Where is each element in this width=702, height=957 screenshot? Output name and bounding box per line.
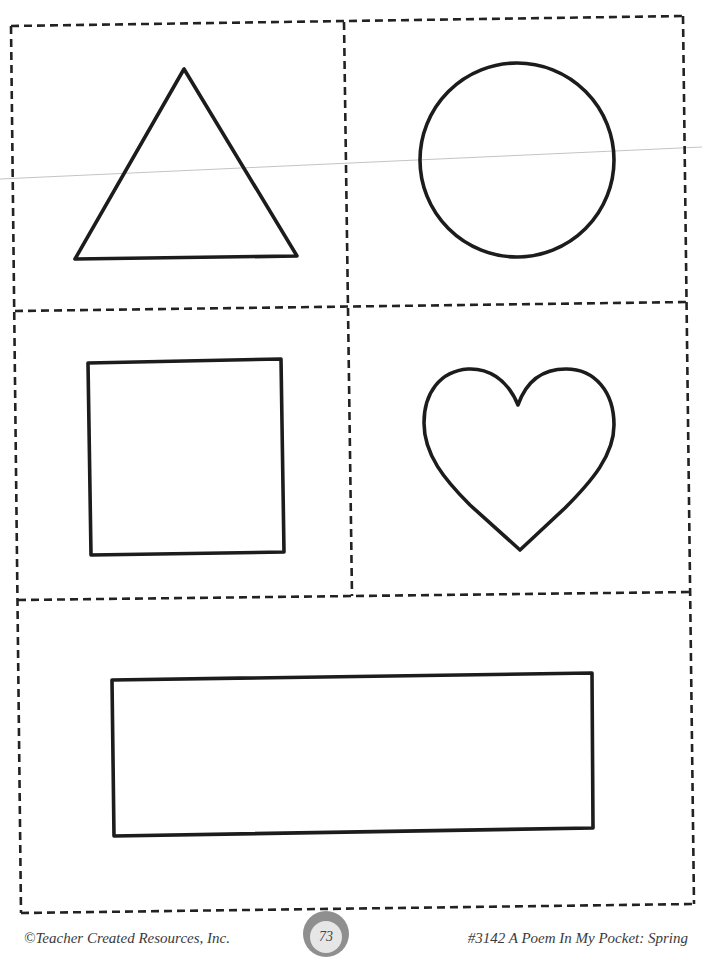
card-rectangle bbox=[112, 673, 593, 836]
publisher-credit: ©Teacher Created Resources, Inc. bbox=[24, 930, 230, 947]
rectangle-shape bbox=[112, 673, 593, 836]
worksheet-page bbox=[0, 0, 702, 957]
card-circle bbox=[420, 63, 614, 257]
square-shape bbox=[88, 359, 284, 555]
page-number-badge: 73 bbox=[303, 911, 349, 957]
cut-line-bottom bbox=[21, 904, 694, 913]
cut-line-row-divider-2 bbox=[18, 592, 691, 600]
scan-artifact-line bbox=[0, 147, 702, 179]
cut-line-top bbox=[11, 16, 683, 26]
heart-shape bbox=[424, 369, 614, 550]
cut-line-left bbox=[11, 26, 21, 913]
card-square bbox=[88, 359, 284, 555]
cut-line-column-divider bbox=[344, 22, 352, 596]
book-title: #3142 A Poem In My Pocket: Spring bbox=[468, 930, 688, 947]
page-number: 73 bbox=[310, 921, 342, 953]
card-triangle bbox=[75, 69, 297, 259]
triangle-shape bbox=[75, 69, 297, 259]
card-heart bbox=[424, 369, 614, 550]
circle-shape bbox=[420, 63, 614, 257]
cut-line-right bbox=[683, 16, 694, 904]
cut-line-row-divider-1 bbox=[15, 302, 688, 311]
